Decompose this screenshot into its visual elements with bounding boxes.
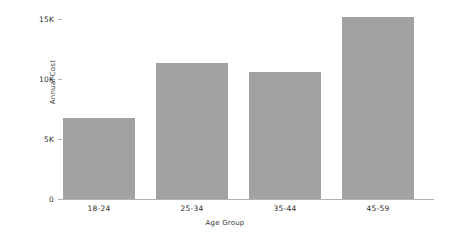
y-tick-label-5k: 5K (26, 135, 54, 144)
bar-18-24 (63, 118, 135, 199)
bar-chart: Annual Cost 15K 10K 5K 0 18-24 25-34 35-… (0, 0, 450, 240)
x-axis-title: Age Group (0, 219, 450, 227)
y-tick-label-10k: 10K (26, 75, 54, 84)
bar-25-34 (156, 63, 228, 199)
bar-45-59 (342, 17, 414, 199)
y-tick-mark-15k (58, 19, 62, 20)
y-tick-mark-10k (58, 79, 62, 80)
x-axis-line (58, 199, 434, 200)
x-tick-label-25-34: 25-34 (156, 204, 228, 213)
x-tick-label-18-24: 18-24 (63, 204, 135, 213)
bar-35-44 (249, 72, 321, 199)
y-tick-label-0: 0 (26, 195, 54, 204)
x-tick-label-35-44: 35-44 (249, 204, 321, 213)
y-tick-mark-5k (58, 139, 62, 140)
x-tick-label-45-59: 45-59 (342, 204, 414, 213)
bar-series-annual-cost (63, 12, 432, 199)
y-tick-label-15k: 15K (26, 15, 54, 24)
